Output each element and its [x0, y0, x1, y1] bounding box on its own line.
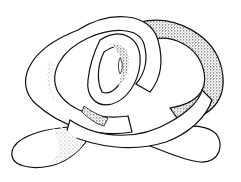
- inner-loop: [88, 34, 140, 105]
- illustration-canvas: [0, 0, 241, 182]
- knot-illustration: [0, 0, 241, 182]
